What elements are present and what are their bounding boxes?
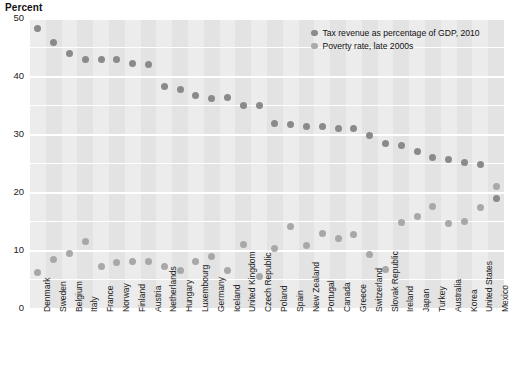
x-axis-tick-label: United Kingdom — [247, 252, 257, 312]
data-point — [192, 258, 199, 265]
data-point — [161, 263, 168, 270]
x-axis-tick-label: Netherlands — [168, 266, 178, 312]
data-point — [50, 256, 57, 263]
x-axis-tick-label: Japan — [421, 289, 431, 312]
y-axis-tick-label: 40 — [0, 70, 24, 81]
data-point — [319, 123, 326, 130]
x-axis-tick-label: Germany — [216, 277, 226, 312]
x-axis-tick-label: Australia — [453, 279, 463, 312]
x-axis-tick-label: Spain — [295, 290, 305, 312]
data-point — [461, 218, 468, 225]
data-point — [366, 132, 373, 139]
data-point — [335, 235, 342, 242]
data-point — [208, 253, 215, 260]
data-point — [145, 61, 152, 68]
x-axis-tick-label: Iceland — [232, 285, 242, 312]
chart-legend: Tax revenue as percentage of GDP, 2010 P… — [311, 27, 480, 53]
data-point — [366, 251, 373, 258]
x-axis-tick-label: Hungary — [184, 280, 194, 312]
data-point — [477, 204, 484, 211]
x-axis-tick-label: Czech Republic — [263, 252, 273, 312]
data-point — [145, 258, 152, 265]
x-axis-tick-label: Portugal — [326, 280, 336, 312]
data-point — [303, 242, 310, 249]
data-point — [98, 56, 105, 63]
legend-item-tax-revenue: Tax revenue as percentage of GDP, 2010 — [311, 27, 480, 39]
x-axis-tick-label: Turkey — [437, 286, 447, 312]
data-point — [445, 220, 452, 227]
data-point — [350, 231, 357, 238]
gridline — [30, 105, 504, 106]
poverty-series-dot-icon — [311, 43, 318, 50]
x-axis-tick-label: Finland — [137, 284, 147, 312]
data-point — [224, 94, 231, 101]
data-point — [414, 148, 421, 155]
data-point — [398, 142, 405, 149]
data-point — [256, 102, 263, 109]
x-axis-tick-label: Canada — [342, 282, 352, 312]
data-point — [98, 263, 105, 270]
x-axis-tick-label: United States — [484, 261, 494, 312]
data-point — [129, 60, 136, 67]
data-point — [493, 183, 500, 190]
gridline — [30, 134, 504, 136]
x-axis-tick-label: Norway — [121, 283, 131, 312]
data-point — [82, 56, 89, 63]
y-axis-tick-label: 10 — [0, 244, 24, 255]
x-axis-tick-label: New Zealand — [311, 262, 321, 312]
x-axis-tick-label: Poland — [279, 286, 289, 312]
legend-label-poverty-rate: Poverty rate, late 2000s — [323, 41, 414, 51]
x-axis-tick-label: Denmark — [42, 278, 52, 312]
gridline — [30, 18, 504, 20]
gridline — [30, 76, 504, 78]
legend-item-poverty-rate: Poverty rate, late 2000s — [311, 40, 480, 52]
data-point — [461, 159, 468, 166]
gridline — [30, 163, 504, 164]
x-axis-tick-label: France — [105, 286, 115, 312]
x-axis-tick-label: Luxembourg — [200, 265, 210, 312]
x-axis-tick-label: Mexico — [500, 285, 510, 312]
data-point — [50, 39, 57, 46]
x-axis-tick-label: Slovak Republic — [390, 251, 400, 312]
data-point — [177, 86, 184, 93]
data-point — [240, 241, 247, 248]
x-axis-tick-label: Ireland — [405, 286, 415, 312]
gridline — [30, 221, 504, 222]
x-axis-tick-label: Belgium — [74, 281, 84, 312]
data-point — [161, 83, 168, 90]
data-point — [34, 25, 41, 32]
data-point — [319, 230, 326, 237]
data-point — [445, 156, 452, 163]
y-axis-tick-label: 30 — [0, 128, 24, 139]
x-axis-tick-label: Korea — [469, 289, 479, 312]
data-point — [224, 267, 231, 274]
x-axis-tick-label: Austria — [153, 286, 163, 312]
data-point — [287, 121, 294, 128]
data-point — [287, 223, 294, 230]
data-point — [398, 219, 405, 226]
x-axis-tick-label: Greece — [358, 284, 368, 312]
x-axis-tick-label: Switzerland — [374, 268, 384, 312]
x-axis-tick-label: Italy — [89, 296, 99, 312]
y-axis-tick-label: 50 — [0, 12, 24, 23]
data-point — [192, 92, 199, 99]
gridline — [30, 192, 504, 194]
data-point — [350, 125, 357, 132]
tax-series-dot-icon — [311, 30, 318, 37]
data-point — [335, 125, 342, 132]
data-point — [129, 258, 136, 265]
x-axis-tick-label: Sweden — [58, 281, 68, 312]
y-axis-tick-label: 20 — [0, 186, 24, 197]
data-point — [34, 269, 41, 276]
data-point — [414, 213, 421, 220]
data-point — [66, 50, 73, 57]
data-point — [477, 161, 484, 168]
data-point — [66, 250, 73, 257]
legend-label-tax-revenue: Tax revenue as percentage of GDP, 2010 — [323, 28, 480, 38]
y-axis-tick-label: 0 — [0, 302, 24, 313]
data-point — [303, 123, 310, 130]
data-point — [382, 140, 389, 147]
data-point — [240, 102, 247, 109]
